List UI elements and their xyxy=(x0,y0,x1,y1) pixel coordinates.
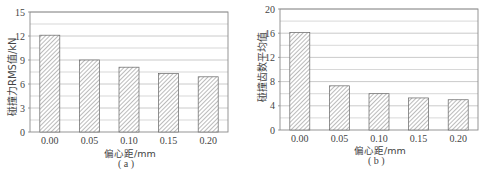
chart-a-panel-label: ( a ) xyxy=(118,158,134,169)
chart-a: 036912150.000.050.100.150.20 碰撞力RMS值/kN … xyxy=(0,0,242,176)
bar xyxy=(40,35,60,132)
x-tick-label: 0.05 xyxy=(81,135,99,146)
bar xyxy=(409,98,429,130)
bar xyxy=(79,60,99,132)
x-tick-label: 0.05 xyxy=(331,133,349,144)
y-tick-label: 4 xyxy=(270,100,275,111)
y-tick-label: 0 xyxy=(20,127,25,138)
bar xyxy=(119,67,139,132)
chart-a-y-axis-label: 碰撞力RMS值/kN xyxy=(4,37,19,116)
x-tick-label: 0.15 xyxy=(160,135,178,146)
bar xyxy=(329,86,349,130)
x-tick-label: 0.00 xyxy=(41,135,59,146)
bar xyxy=(290,33,310,130)
y-tick-label: 6 xyxy=(20,79,25,90)
x-tick-label: 0.20 xyxy=(199,135,217,146)
y-tick-label: 20 xyxy=(265,4,275,15)
bar xyxy=(198,77,218,132)
chart-b-panel-label: ( b ) xyxy=(368,155,385,166)
y-tick-label: 8 xyxy=(270,76,275,87)
x-tick-label: 0.00 xyxy=(291,133,309,144)
bar xyxy=(159,74,179,132)
y-tick-label: 0 xyxy=(270,125,275,136)
x-tick-label: 0.15 xyxy=(410,133,428,144)
chart-b: 0481216200.000.050.100.150.20 碰撞齿数平均值 偏心… xyxy=(242,0,484,176)
chart-b-y-axis-label: 碰撞齿数平均值 xyxy=(254,32,269,102)
y-tick-label: 9 xyxy=(20,55,25,66)
x-tick-label: 0.20 xyxy=(449,133,467,144)
x-tick-label: 0.10 xyxy=(120,135,138,146)
bar xyxy=(448,100,468,130)
bar xyxy=(369,94,389,130)
y-tick-label: 3 xyxy=(20,103,25,114)
y-tick-label: 15 xyxy=(15,7,25,18)
